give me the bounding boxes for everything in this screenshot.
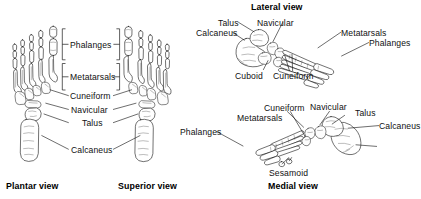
medial-view-drawing (256, 117, 361, 167)
label-lateral-metatarsals: Metatarsals (341, 28, 387, 38)
caption-medial-view: Medial view (268, 181, 318, 191)
label-lateral-calcaneus: Calcaneus (196, 28, 238, 38)
label-medial-phalanges: Phalanges (180, 127, 222, 137)
label-medial-talus: Talus (355, 108, 376, 118)
label-plantar-metatarsals: Metatarsals (70, 72, 116, 82)
label-plantar-calcaneus: Calcaneus (71, 145, 113, 155)
label-lateral-navicular: Navicular (257, 18, 294, 28)
label-plantar-talus: Talus (82, 118, 103, 128)
label-medial-metatarsals: Metatarsals (237, 113, 283, 123)
label-medial-cuneiform: Cuneiform (264, 103, 305, 113)
label-medial-navicular: Navicular (310, 102, 347, 112)
label-lateral-cuboid: Cuboid (235, 71, 263, 81)
label-medial-calcaneus: Calcaneus (379, 121, 421, 131)
label-medial-sesamoid: Sesamoid (269, 168, 308, 178)
superior-view-drawing (124, 26, 171, 161)
plantar-view-drawing (13, 26, 58, 161)
label-lateral-cuneiform: Cuneiform (273, 71, 314, 81)
caption-superior-view: Superior view (118, 181, 177, 191)
label-plantar-cuneiform: Cuneiform (70, 91, 111, 101)
label-plantar-phalanges: Phalanges (70, 40, 112, 50)
label-lateral-talus: Talus (218, 18, 239, 28)
caption-lateral-view: Lateral view (251, 2, 303, 12)
label-lateral-phalanges: Phalanges (369, 38, 411, 48)
label-plantar-navicular: Navicular (71, 105, 108, 115)
caption-plantar-view: Plantar view (6, 181, 59, 191)
